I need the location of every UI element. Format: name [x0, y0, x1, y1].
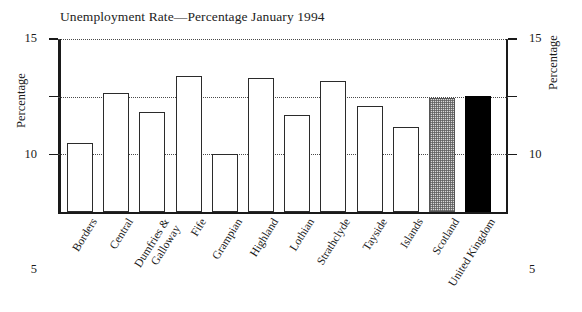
bar	[465, 96, 491, 212]
x-axis-label: Islands	[398, 216, 426, 250]
bar	[139, 112, 165, 212]
y-tick-left: 5	[49, 154, 58, 156]
y-tick-label-left: 5	[31, 261, 37, 276]
x-axis-label-line: Strathclyde	[315, 216, 353, 267]
bar	[393, 127, 419, 212]
x-axis-label-line: Grampian	[209, 216, 244, 261]
y-tick-right: 5	[508, 154, 517, 156]
y-tick-label-left: 15	[25, 31, 38, 46]
x-axis-label-line: Scotland	[430, 216, 462, 256]
x-axis-label: Strathclyde	[315, 216, 353, 267]
y-axis-left-title: Percentage	[14, 73, 29, 128]
y-tick-label-right: 10	[529, 146, 542, 161]
x-axis-label: Scotland	[430, 216, 462, 257]
x-axis-label: Borders	[70, 216, 100, 254]
x-axis-label: Lothian	[287, 216, 317, 253]
y-tick-right: 10	[508, 96, 517, 98]
x-axis-label-line: Fife	[188, 216, 208, 238]
x-axis-label: Central	[107, 216, 136, 251]
bar	[212, 154, 238, 212]
x-axis-label-line: Borders	[70, 216, 99, 253]
bar-series	[58, 39, 508, 212]
bar	[248, 78, 274, 212]
x-axis-label: Highland	[247, 216, 280, 259]
x-axis-label: Tayside	[360, 216, 389, 253]
bar	[176, 76, 202, 212]
x-axis-label: Fife	[188, 216, 208, 238]
bar	[320, 81, 346, 212]
unemployment-bar-chart: Unemployment Rate—Percentage January 199…	[0, 0, 582, 312]
x-axis-label-line: Tayside	[360, 216, 389, 253]
y-tick-left: 10	[49, 96, 58, 98]
plot-area: 51015 51015	[58, 39, 508, 214]
x-axis-label-line: Central	[107, 216, 135, 251]
bar	[284, 115, 310, 212]
chart-title: Unemployment Rate—Percentage January 199…	[60, 9, 325, 25]
x-axis-label: Grampian	[209, 216, 244, 262]
x-axis-label-line: Lothian	[287, 216, 316, 253]
x-axis-label-line: Islands	[398, 216, 425, 250]
y-tick-label-right: 5	[529, 261, 535, 276]
bar	[429, 98, 455, 212]
y-tick-right: 15	[508, 38, 517, 40]
y-tick-label-left: 10	[25, 146, 38, 161]
bar	[357, 106, 383, 212]
bar	[67, 143, 93, 212]
x-axis-label: Dumfries &Galloway	[132, 216, 182, 276]
y-tick-label-right: 15	[529, 31, 542, 46]
y-axis-right-title: Percentage	[546, 35, 561, 90]
x-axis-category-labels: BordersCentralDumfries &GallowayFifeGram…	[58, 216, 508, 312]
bar	[103, 93, 129, 212]
y-tick-left: 15	[49, 38, 58, 40]
x-axis-label-line: Highland	[247, 216, 280, 259]
